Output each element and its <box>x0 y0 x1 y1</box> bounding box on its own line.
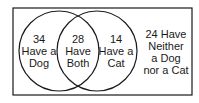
both-count: 28 <box>63 33 93 45</box>
dog-only-label: 34 Have a Dog <box>20 33 58 69</box>
neither-line1: 24 Have <box>141 28 191 40</box>
neither-label: 24 Have Neither a Dog nor a Cat <box>141 28 191 76</box>
neither-line4: nor a Cat <box>141 64 191 76</box>
both-line2: Both <box>63 57 93 69</box>
both-line1: Have <box>63 45 93 57</box>
both-label: 28 Have Both <box>63 33 93 69</box>
cat-only-line2: Cat <box>98 57 134 69</box>
cat-only-line1: Have a <box>98 45 134 57</box>
neither-line2: Neither <box>141 40 191 52</box>
dog-only-line1: Have a <box>20 45 58 57</box>
cat-only-label: 14 Have a Cat <box>98 33 134 69</box>
dog-only-line2: Dog <box>20 57 58 69</box>
neither-line3: a Dog <box>141 52 191 64</box>
cat-only-count: 14 <box>98 33 134 45</box>
dog-only-count: 34 <box>20 33 58 45</box>
